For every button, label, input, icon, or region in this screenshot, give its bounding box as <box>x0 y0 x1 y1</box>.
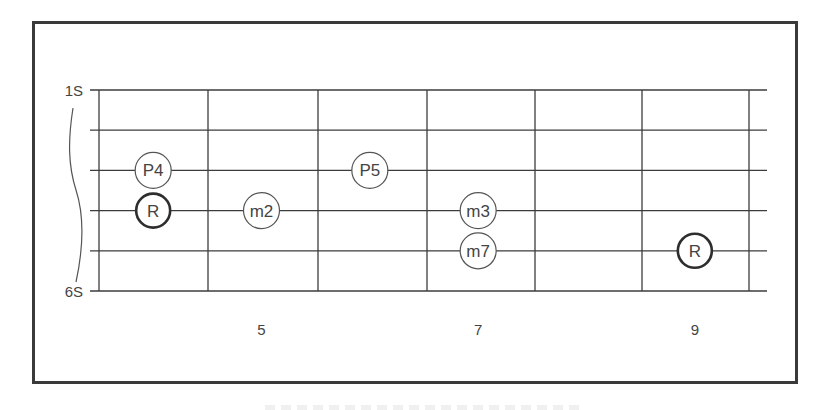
note-label: P4 <box>143 161 164 180</box>
note-label: R <box>689 242 701 261</box>
fret-number-7: 7 <box>474 321 482 338</box>
strings-group <box>90 90 767 291</box>
string-label-top: 1S <box>65 82 83 99</box>
note-label: m2 <box>250 202 274 221</box>
interval-note-marker: m7 <box>460 233 496 269</box>
root-note-marker: R <box>136 194 170 228</box>
fret-number-5: 5 <box>257 321 265 338</box>
fret-number-9: 9 <box>691 321 699 338</box>
fretboard-diagram: 1S 6S 579 P4Rm2P5m3m7R <box>0 0 821 410</box>
note-label: P5 <box>359 161 380 180</box>
root-note-marker: R <box>678 234 712 268</box>
interval-note-marker: P5 <box>352 152 388 188</box>
interval-note-marker: P4 <box>135 152 171 188</box>
note-label: m3 <box>466 202 490 221</box>
string-label-bottom: 6S <box>65 283 83 300</box>
note-label: m7 <box>466 242 490 261</box>
string-range-brace <box>70 108 82 282</box>
frets-group <box>99 90 749 291</box>
note-label: R <box>147 202 159 221</box>
interval-note-marker: m3 <box>460 193 496 229</box>
fret-numbers-group: 579 <box>257 321 699 338</box>
caption-clipped <box>265 405 585 410</box>
interval-note-marker: m2 <box>244 193 280 229</box>
